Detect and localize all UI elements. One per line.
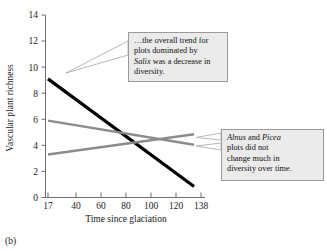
x-tick-label: 100 — [144, 201, 159, 211]
panel-label: (b) — [5, 236, 16, 247]
callout-salix-line-4: diversity. — [134, 67, 223, 77]
data-series-group — [48, 79, 194, 187]
callout-alnus-conjunction: and — [246, 133, 262, 142]
y-tick-label: 14 — [29, 10, 39, 20]
callout-salix: …the overall trend for plots dominated b… — [128, 32, 228, 82]
leader-line — [66, 41, 128, 73]
x-axis-ticks — [48, 193, 201, 198]
x-tick-label: 138 — [194, 201, 209, 211]
y-tick-label: 12 — [29, 36, 39, 46]
x-tick-label: 17 — [43, 201, 53, 211]
callout-salix-genus: Salix — [134, 57, 151, 66]
x-tick-label: 80 — [121, 201, 131, 211]
y-tick-label: 2 — [33, 167, 38, 177]
x-tick-label: 120 — [169, 201, 184, 211]
callout-alnus-line-2: plots did not — [227, 143, 319, 153]
y-tick-label: 6 — [33, 115, 38, 125]
x-tick-label: 40 — [71, 201, 81, 211]
x-tick-label: 60 — [96, 201, 106, 211]
x-axis-tick-labels: 17406080100120138 — [43, 201, 208, 211]
callout-alnus: Alnus and Picea plots did not change muc… — [221, 129, 324, 181]
callout-salix-line-1: …the overall trend for — [134, 36, 223, 46]
callout-salix-line-2: plots dominated by — [134, 46, 223, 56]
callout-alnus-line-3: change much in — [227, 154, 319, 164]
y-axis-title: Vascular plant richness — [5, 64, 15, 152]
callout-salix-line-3: Salix was a decrease in — [134, 57, 223, 67]
callout-alnus-genus-2: Picea — [262, 133, 281, 142]
callout-alnus-line-1: Alnus and Picea — [227, 133, 319, 143]
y-tick-label: 10 — [29, 63, 39, 73]
callout-alnus-line-4: diversity over time. — [227, 164, 319, 174]
leader-line — [196, 143, 221, 150]
figure-panel-b: 02468101214 17406080100120138 Time since… — [0, 0, 327, 251]
series-line-picea — [48, 134, 194, 154]
y-axis-ticks — [42, 15, 46, 198]
x-axis-title: Time since glaciation — [85, 214, 167, 224]
callout-salix-line-3-suffix: was a decrease in — [151, 57, 211, 66]
callout-alnus-genus-1: Alnus — [227, 133, 246, 142]
y-tick-label: 0 — [33, 193, 38, 203]
leader-line — [196, 133, 221, 140]
series-line-alnus — [48, 121, 194, 145]
y-axis-tick-labels: 02468101214 — [29, 10, 39, 203]
y-tick-label: 8 — [33, 89, 38, 99]
y-tick-label: 4 — [33, 141, 38, 151]
